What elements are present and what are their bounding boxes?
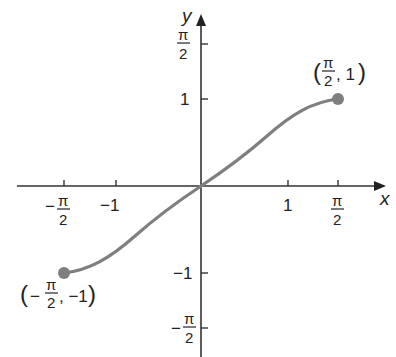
endpoint-right	[332, 93, 344, 105]
svg-text:2: 2	[59, 211, 67, 228]
svg-text:2: 2	[47, 294, 55, 311]
svg-text:): )	[88, 280, 96, 307]
svg-text:(: (	[313, 58, 321, 85]
svg-text:2: 2	[324, 72, 332, 89]
y-tick-neg-1: −1	[173, 264, 192, 283]
svg-text:2: 2	[333, 211, 341, 228]
annotation-left-endpoint: ( − π 2 , −1 )	[20, 276, 96, 311]
x-tick-neg-1: −1	[100, 196, 119, 215]
x-tick-pi-over-2: π 2	[331, 192, 344, 228]
x-tick-1: 1	[283, 196, 292, 215]
svg-text:, 1: , 1	[336, 65, 355, 84]
svg-text:2: 2	[179, 45, 187, 62]
svg-text:π: π	[184, 310, 194, 327]
x-axis-label: x	[379, 188, 391, 209]
svg-text:−: −	[45, 197, 55, 216]
svg-text:−: −	[30, 287, 40, 306]
y-tick-neg-pi-over-2: − π 2	[171, 310, 196, 346]
y-axis-arrow-icon	[196, 14, 206, 26]
svg-text:π: π	[178, 26, 188, 43]
svg-text:2: 2	[185, 329, 193, 346]
svg-text:(: (	[20, 280, 28, 307]
svg-text:π: π	[323, 54, 333, 71]
endpoint-left	[58, 267, 70, 279]
y-tick-1: 1	[180, 90, 189, 109]
svg-text:π: π	[58, 192, 68, 209]
y-axis-label: y	[180, 5, 193, 26]
sine-graph: x y − π 2 −1 1 π 2 π 2 1 −1 − π 2 ( π 2 …	[0, 0, 396, 357]
svg-text:−: −	[171, 319, 181, 338]
x-tick-neg-pi-over-2: − π 2	[45, 192, 70, 228]
svg-text:, −1: , −1	[59, 287, 88, 306]
y-tick-pi-over-2: π 2	[177, 26, 190, 62]
annotation-right-endpoint: ( π 2 , 1 )	[313, 54, 366, 89]
svg-text:π: π	[332, 192, 342, 209]
svg-text:π: π	[46, 276, 56, 293]
svg-text:): )	[358, 58, 366, 85]
